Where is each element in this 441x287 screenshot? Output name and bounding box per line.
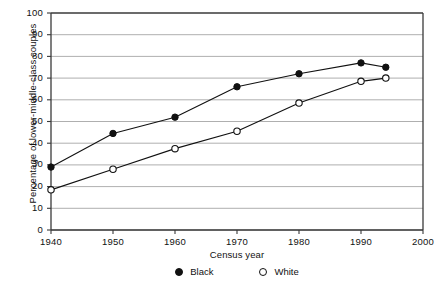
line-chart: Percentage of lower-middle-class couples… xyxy=(0,0,441,287)
data-point xyxy=(383,64,389,70)
chart-legend: BlackWhite xyxy=(51,266,423,277)
x-axis-tick-label: 1970 xyxy=(217,236,257,247)
series-line xyxy=(51,63,386,167)
data-point xyxy=(110,166,116,172)
y-axis-tick-label: 60 xyxy=(17,93,43,104)
y-axis-tick-label: 40 xyxy=(17,137,43,148)
data-point xyxy=(383,75,389,81)
data-point xyxy=(110,130,116,136)
data-point xyxy=(358,60,364,66)
data-point xyxy=(172,145,178,151)
data-point xyxy=(48,187,54,193)
open-circle-marker-icon xyxy=(259,268,267,276)
y-axis-tick-label: 20 xyxy=(17,180,43,191)
legend-entry-white: White xyxy=(259,266,298,277)
data-point xyxy=(234,128,240,134)
y-axis-tick-label: 80 xyxy=(17,50,43,61)
y-axis-tick-label: 90 xyxy=(17,28,43,39)
y-axis-tick-label: 70 xyxy=(17,72,43,83)
x-axis-tick-label: 1980 xyxy=(279,236,319,247)
y-axis-tick-label: 30 xyxy=(17,158,43,169)
x-axis-tick-label: 1940 xyxy=(31,236,71,247)
y-axis-tick-label: 100 xyxy=(17,7,43,18)
filled-circle-marker-icon xyxy=(175,268,183,276)
data-point xyxy=(234,84,240,90)
gridlines xyxy=(51,13,423,230)
data-point xyxy=(296,100,302,106)
series-black xyxy=(48,60,389,171)
y-axis-tick-label: 50 xyxy=(17,115,43,126)
legend-label: Black xyxy=(190,266,213,277)
data-point xyxy=(358,78,364,84)
y-axis-tick-label: 10 xyxy=(17,202,43,213)
y-axis-tick-label: 0 xyxy=(17,224,43,235)
data-series xyxy=(48,60,389,193)
x-axis-tick-label: 1960 xyxy=(155,236,195,247)
data-point xyxy=(172,114,178,120)
x-axis-tick-label: 1990 xyxy=(341,236,381,247)
series-white xyxy=(48,75,389,193)
legend-label: White xyxy=(274,266,298,277)
data-point xyxy=(296,71,302,77)
x-axis-tick-label: 2000 xyxy=(403,236,441,247)
x-axis-tick-label: 1950 xyxy=(93,236,133,247)
x-axis-title: Census year xyxy=(51,249,423,260)
data-point xyxy=(48,164,54,170)
legend-entry-black: Black xyxy=(175,266,213,277)
series-line xyxy=(51,78,386,190)
